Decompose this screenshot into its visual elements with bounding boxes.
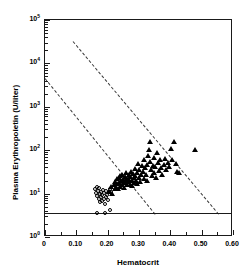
x-axis-tick-label: 0 bbox=[27, 240, 61, 247]
detection-limit-line bbox=[44, 213, 232, 214]
y-axis-minor-tick bbox=[45, 109, 48, 110]
y-axis-minor-tick bbox=[45, 68, 48, 69]
y-axis-minor-tick bbox=[45, 200, 48, 201]
x-axis-tick-label: 0.50 bbox=[184, 240, 218, 247]
y-axis-minor-tick bbox=[45, 152, 48, 153]
y-axis-minor-tick bbox=[45, 160, 48, 161]
x-axis-minor-tick bbox=[123, 232, 124, 235]
y-axis-minor-tick bbox=[45, 50, 48, 51]
y-axis-minor-tick bbox=[45, 86, 48, 87]
x-axis-minor-tick bbox=[155, 232, 156, 235]
data-point-filled-triangle bbox=[109, 191, 115, 196]
data-point-filled-triangle bbox=[166, 164, 172, 169]
plot-area bbox=[44, 19, 232, 236]
data-point-filled-triangle bbox=[173, 161, 179, 166]
y-axis-minor-tick bbox=[45, 65, 48, 66]
scatter-plot-figure: Hematocrit Plasma Erythropoietin (U/lite… bbox=[0, 0, 249, 276]
y-axis-minor-tick bbox=[45, 30, 48, 31]
y-axis-minor-tick bbox=[45, 137, 48, 138]
y-axis-minor-tick bbox=[45, 43, 48, 44]
x-axis-tick bbox=[233, 230, 234, 235]
y-axis-minor-tick bbox=[45, 33, 48, 34]
data-point-filled-triangle bbox=[176, 170, 182, 175]
y-axis-minor-tick bbox=[45, 154, 48, 155]
x-axis-tick-label: 0.20 bbox=[90, 240, 124, 247]
y-axis-tick-label: 102 bbox=[16, 145, 40, 152]
y-axis-minor-tick bbox=[45, 207, 48, 208]
y-axis-tick bbox=[45, 63, 50, 64]
y-axis-minor-tick bbox=[45, 116, 48, 117]
x-axis-minor-tick bbox=[186, 232, 187, 235]
y-axis-minor-tick bbox=[45, 181, 48, 182]
x-axis-tick-label: 0.40 bbox=[152, 240, 186, 247]
data-point-filled-triangle bbox=[159, 172, 165, 177]
data-point-filled-triangle bbox=[192, 147, 198, 152]
y-axis-minor-tick bbox=[45, 37, 48, 38]
data-point-open-circle bbox=[106, 198, 110, 202]
x-axis-title: Hematocrit bbox=[44, 258, 232, 267]
y-axis-tick bbox=[45, 20, 50, 21]
y-axis-tick bbox=[45, 194, 50, 195]
y-axis-minor-tick bbox=[45, 24, 48, 25]
y-axis-minor-tick bbox=[45, 173, 48, 174]
y-axis-minor-tick bbox=[45, 163, 48, 164]
y-axis-minor-tick bbox=[45, 196, 48, 197]
y-axis-minor-tick bbox=[45, 167, 48, 168]
y-axis-tick-label: 104 bbox=[16, 58, 40, 65]
data-point-filled-triangle bbox=[153, 175, 159, 180]
x-axis-minor-tick bbox=[92, 232, 93, 235]
x-axis-tick bbox=[202, 230, 203, 235]
x-axis-tick bbox=[45, 230, 46, 235]
data-point-filled-triangle bbox=[168, 146, 174, 151]
data-point-filled-triangle bbox=[154, 150, 160, 155]
y-axis-minor-tick bbox=[45, 70, 48, 71]
x-axis-minor-tick bbox=[61, 232, 62, 235]
y-axis-minor-tick bbox=[45, 73, 48, 74]
y-axis-minor-tick bbox=[45, 124, 48, 125]
data-point-filled-triangle bbox=[146, 147, 152, 152]
data-point-filled-triangle bbox=[144, 178, 150, 183]
data-point-filled-triangle bbox=[171, 139, 177, 144]
x-axis-tick-label: 0.30 bbox=[121, 240, 155, 247]
y-axis-minor-tick bbox=[45, 157, 48, 158]
x-axis-tick bbox=[76, 230, 77, 235]
y-axis-tick-label: 100 bbox=[16, 232, 40, 239]
y-axis-minor-tick bbox=[45, 114, 48, 115]
y-axis-tick bbox=[45, 150, 50, 151]
y-axis-minor-tick bbox=[45, 22, 48, 23]
data-point-filled-triangle bbox=[147, 139, 153, 144]
y-axis-tick-label: 105 bbox=[16, 15, 40, 22]
x-axis-tick bbox=[170, 230, 171, 235]
y-axis-minor-tick bbox=[45, 211, 48, 212]
y-axis-tick-label: 101 bbox=[16, 189, 40, 196]
y-axis-minor-tick bbox=[45, 129, 48, 130]
x-axis-minor-tick bbox=[217, 232, 218, 235]
y-axis-tick bbox=[45, 237, 50, 238]
y-axis-minor-tick bbox=[45, 198, 48, 199]
x-axis-tick-label: 0.10 bbox=[58, 240, 92, 247]
y-axis-tick bbox=[45, 107, 50, 108]
y-axis-minor-tick bbox=[45, 27, 48, 28]
y-axis-minor-tick bbox=[45, 224, 48, 225]
x-axis-tick bbox=[139, 230, 140, 235]
data-point-open-circle bbox=[103, 202, 107, 206]
y-axis-tick-label: 103 bbox=[16, 102, 40, 109]
x-axis-tick-label: 0.60 bbox=[215, 240, 249, 247]
x-axis-tick bbox=[108, 230, 109, 235]
y-axis-minor-tick bbox=[45, 120, 48, 121]
y-axis-minor-tick bbox=[45, 111, 48, 112]
y-axis-minor-tick bbox=[45, 203, 48, 204]
y-axis-minor-tick bbox=[45, 216, 48, 217]
y-axis-minor-tick bbox=[45, 94, 48, 95]
